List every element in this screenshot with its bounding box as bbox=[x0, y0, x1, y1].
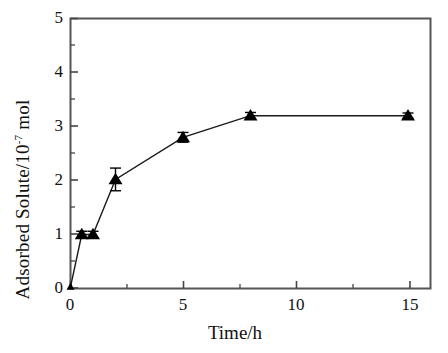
axis-frame bbox=[71, 19, 431, 289]
data-point-marker bbox=[67, 283, 75, 290]
data-point-marker bbox=[109, 173, 123, 185]
data-markers bbox=[67, 109, 416, 290]
data-point-marker bbox=[401, 109, 415, 121]
error-bars bbox=[76, 112, 413, 237]
data-point-marker bbox=[244, 109, 258, 121]
plot-canvas bbox=[0, 0, 448, 353]
data-point-marker bbox=[86, 228, 100, 240]
data-series-line bbox=[71, 116, 409, 287]
chart-figure: Adsorbed Solute/10-7 mol Time/h 0 1 2 3 … bbox=[0, 0, 448, 353]
